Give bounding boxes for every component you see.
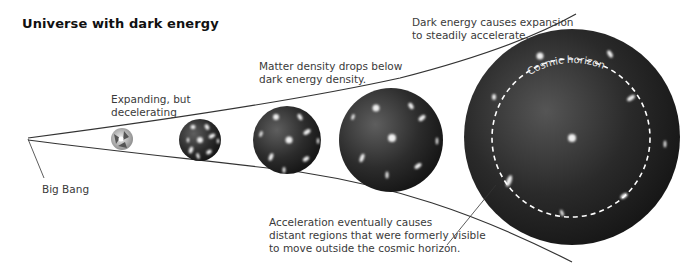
big-bang-label: Big Bang [42, 183, 89, 196]
stage-5-sphere: Cosmic horizon [464, 29, 680, 245]
early-universe-sphere [111, 128, 133, 150]
acceleration-label: Acceleration eventually causes distant r… [269, 216, 486, 255]
stage-4-sphere [339, 88, 443, 192]
dark-energy-label: Dark energy causes expansion to steadily… [412, 16, 574, 42]
matter-density-label: Matter density drops below dark energy d… [259, 60, 402, 86]
expanding-label: Expanding, but decelerating [111, 93, 191, 119]
stage-2-sphere [179, 119, 221, 161]
stage-3-sphere [253, 106, 321, 174]
big-bang-leader [28, 139, 44, 178]
